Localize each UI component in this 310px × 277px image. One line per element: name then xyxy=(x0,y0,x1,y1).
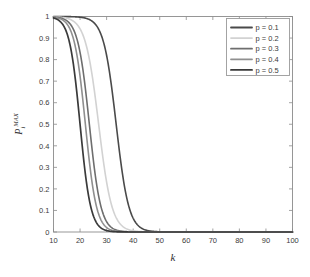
x-tick-label: 10 xyxy=(49,236,57,245)
y-tick-label: 0.1 xyxy=(39,206,49,215)
x-tick-label: 100 xyxy=(286,236,299,245)
legend-label-2: p = 0.2 xyxy=(256,34,279,43)
x-tick-label: 80 xyxy=(235,236,243,245)
y-tick-label: 1 xyxy=(45,12,49,21)
legend-label-1: p = 0.1 xyxy=(256,23,279,32)
x-tick-label: 20 xyxy=(76,236,84,245)
legend-label-3: p = 0.3 xyxy=(256,44,279,53)
x-tick-label: 50 xyxy=(156,236,164,245)
x-tick-label: 90 xyxy=(262,236,270,245)
legend[interactable]: p = 0.1p = 0.2p = 0.3p = 0.4p = 0.5 xyxy=(227,19,290,76)
y-tick-label: 0.2 xyxy=(39,185,49,194)
y-tick-label: 0.8 xyxy=(39,55,49,64)
y-tick-label: 0.6 xyxy=(39,98,49,107)
legend-label-5: p = 0.5 xyxy=(256,66,279,75)
y-tick-label: 0.7 xyxy=(39,77,49,86)
x-tick-label: 40 xyxy=(129,236,137,245)
y-tick-label: 0 xyxy=(45,228,49,237)
y-tick-label: 0.9 xyxy=(39,34,49,43)
figure-container: 102030405060708090100 00.10.20.30.40.50.… xyxy=(0,0,310,277)
y-axis-title-superscript: MAX xyxy=(12,112,19,127)
y-axis-title-subscript: i xyxy=(19,127,26,129)
y-tick-label: 0.4 xyxy=(39,142,49,151)
y-tick-label: 0.5 xyxy=(39,120,49,129)
y-axis-title-base: P xyxy=(13,129,24,136)
chart-svg: 102030405060708090100 00.10.20.30.40.50.… xyxy=(0,0,310,277)
x-tick-label: 70 xyxy=(209,236,217,245)
legend-label-4: p = 0.4 xyxy=(256,55,279,64)
x-tick-label: 60 xyxy=(182,236,190,245)
y-tick-label: 0.3 xyxy=(39,163,49,172)
x-tick-label: 30 xyxy=(102,236,110,245)
